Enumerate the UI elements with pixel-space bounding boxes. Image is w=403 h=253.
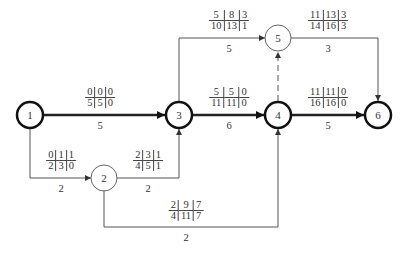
edge-3-5-times: 583 10131: [209, 10, 249, 31]
node-3-label: 3: [176, 109, 182, 121]
edge-2-4-times: 297 4117: [169, 200, 204, 221]
edge-2-4-duration: 2: [183, 233, 188, 244]
node-5-label: 5: [275, 32, 281, 44]
edge-3-5-duration: 5: [226, 44, 231, 55]
node-2-label: 2: [101, 172, 107, 184]
edge-1-3-times: 000 550: [85, 87, 115, 108]
node-1-label: 1: [27, 109, 33, 121]
edge-1-2-duration: 2: [58, 184, 63, 195]
edge-5-6-duration: 3: [325, 44, 330, 55]
edge-5-6-times: 11133 14163: [308, 10, 348, 31]
edge-2-3-duration: 2: [145, 184, 150, 195]
edge-4-6-times: 11110 16160: [308, 87, 348, 108]
edge-3-4-duration: 6: [226, 121, 231, 132]
edge-1-2-times: 011 230: [46, 150, 76, 171]
edge-2-3-times: 231 451: [133, 150, 163, 171]
edge-1-3-duration: 5: [97, 121, 102, 132]
node-6-label: 6: [375, 109, 381, 121]
edge-4-6-duration: 5: [325, 121, 330, 132]
node-4-label: 4: [275, 109, 281, 121]
edge-3-4-times: 550 11110: [209, 87, 249, 108]
